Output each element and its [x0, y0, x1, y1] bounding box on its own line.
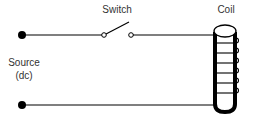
switch-label: Switch	[102, 4, 131, 15]
circuit-diagram: Switch Coil Source (dc)	[0, 0, 262, 125]
coil-top	[214, 25, 236, 37]
source-sublabel: (dc)	[15, 70, 32, 81]
coil	[214, 25, 239, 112]
switch-contact-right	[129, 33, 134, 38]
switch	[102, 22, 134, 37]
coil-body	[215, 32, 235, 112]
coil-label: Coil	[217, 4, 234, 15]
switch-contact-left	[102, 33, 107, 38]
source-label: Source	[8, 57, 40, 68]
switch-lever	[106, 22, 129, 34]
